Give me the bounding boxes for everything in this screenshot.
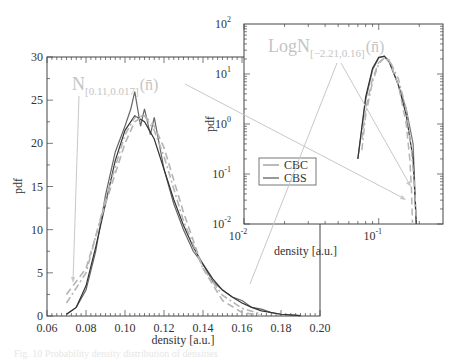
inset-xtick-labels: 10-210-1 — [229, 227, 382, 243]
y-tick-label: 15 — [31, 180, 43, 194]
inset-x-tick-label: 10-2 — [229, 227, 248, 243]
y-tick-label: 20 — [31, 136, 43, 150]
y-tick-label: 10 — [31, 223, 43, 237]
normal-arrow-main — [73, 96, 79, 281]
legend-label-cbs: CBS — [284, 171, 307, 185]
figure-caption: Fig. 10 Probability density distribution… — [14, 348, 218, 359]
inset-legend: CBC CBS — [259, 158, 316, 185]
x-tick-label: 0.10 — [115, 321, 136, 335]
y-tick-label: 5 — [37, 266, 43, 280]
normal-fit-annotation: N[0.11,0.017](n̄) — [72, 74, 158, 97]
main-x-axis-label: density [a.u.] — [152, 333, 215, 347]
legend-label-cbc: CBC — [284, 158, 308, 172]
x-tick-label: 0.18 — [271, 321, 292, 335]
figure: 051015202530 0.060.080.100.120.140.160.1… — [0, 0, 462, 364]
inset-x-tick-label: 10-1 — [363, 227, 382, 243]
series-normal-fit-dashed- — [67, 116, 262, 316]
x-tick-label: 0.20 — [310, 321, 331, 335]
series-lognormal-fit-dash-dot- — [67, 116, 262, 315]
y-tick-label: 30 — [31, 50, 43, 64]
inset-x-axis-label: density [a.u.] — [274, 244, 337, 258]
inset-y-tick-label: 100 — [215, 115, 231, 131]
main-y-axis-label: pdf — [11, 178, 25, 194]
normal-arrowhead-main — [71, 277, 75, 283]
inset-y-tick-label: 102 — [215, 15, 231, 31]
x-tick-label: 0.16 — [232, 321, 253, 335]
inset-y-tick-label: 10-1 — [212, 165, 231, 181]
inset-y-axis-label: pdf — [203, 116, 217, 132]
inset-y-tick-label: 101 — [215, 65, 231, 81]
y-tick-label: 25 — [31, 93, 43, 107]
x-tick-label: 0.08 — [76, 321, 97, 335]
x-tick-label: 0.06 — [37, 321, 58, 335]
main-ytick-labels: 051015202530 — [31, 50, 43, 323]
